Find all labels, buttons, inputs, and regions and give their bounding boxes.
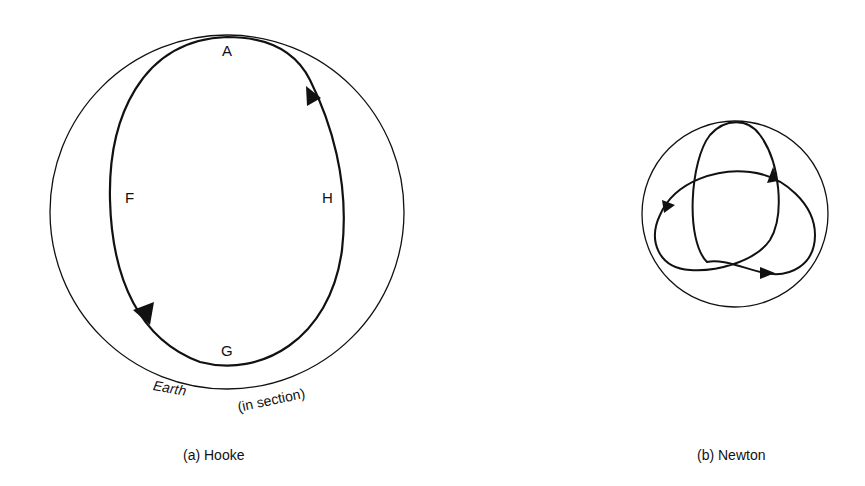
arrow-right-icon <box>760 267 775 279</box>
point-label-g: G <box>221 342 233 359</box>
earth-circle-newton <box>642 121 828 307</box>
caption-hooke: (a) Hooke <box>183 447 244 463</box>
point-label-f: F <box>125 189 134 206</box>
earth-circle <box>50 35 404 389</box>
earth-sublabel: (in section) <box>236 385 306 415</box>
point-label-a: A <box>222 42 232 59</box>
arrow-down-icon <box>133 302 154 325</box>
earth-label: Earth <box>152 377 188 399</box>
hooke-panel: A F G H Earth (in section) <box>50 35 404 415</box>
point-label-h: H <box>322 189 333 206</box>
newton-panel <box>642 121 828 307</box>
caption-newton: (b) Newton <box>697 447 765 463</box>
newton-orbit-path <box>655 122 815 274</box>
diagram-canvas: A F G H Earth (in section) <box>0 0 865 486</box>
